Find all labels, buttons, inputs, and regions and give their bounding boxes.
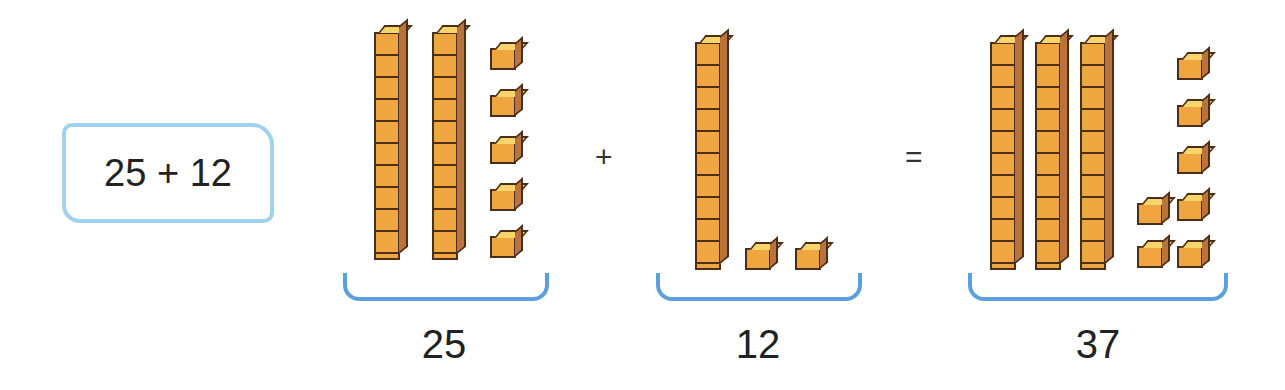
group-37-bracket bbox=[968, 273, 1228, 301]
plus-sign: + bbox=[595, 140, 613, 174]
ten-rod bbox=[1035, 42, 1061, 270]
unit-cube bbox=[490, 142, 516, 164]
unit-cube bbox=[1177, 246, 1203, 268]
group-37-blocks bbox=[985, 40, 1225, 275]
ten-rod bbox=[374, 32, 400, 260]
unit-cube bbox=[490, 236, 516, 258]
group-37-label: 37 bbox=[1038, 322, 1158, 367]
group-25-bracket bbox=[343, 273, 549, 301]
expression-text: 25 + 12 bbox=[104, 152, 232, 195]
unit-cube bbox=[490, 189, 516, 211]
unit-cube bbox=[490, 48, 516, 70]
unit-cube bbox=[1177, 105, 1203, 127]
unit-cube bbox=[1177, 58, 1203, 80]
group-12-blocks bbox=[690, 40, 840, 275]
unit-cube bbox=[795, 248, 821, 270]
expression-box: 25 + 12 bbox=[62, 123, 274, 223]
unit-cube bbox=[1177, 199, 1203, 221]
ten-rod bbox=[990, 42, 1016, 270]
unit-cube bbox=[1137, 246, 1163, 268]
group-25-blocks bbox=[370, 30, 540, 270]
unit-cube bbox=[745, 248, 771, 270]
unit-cube bbox=[1177, 152, 1203, 174]
equals-sign: = bbox=[905, 140, 923, 174]
group-12-label: 12 bbox=[698, 322, 818, 367]
ten-rod bbox=[695, 42, 721, 270]
ten-rod bbox=[432, 32, 458, 260]
unit-cube bbox=[490, 95, 516, 117]
group-12-bracket bbox=[656, 273, 862, 301]
unit-cube bbox=[1137, 203, 1163, 225]
ten-rod bbox=[1080, 42, 1106, 270]
group-25-label: 25 bbox=[384, 322, 504, 367]
